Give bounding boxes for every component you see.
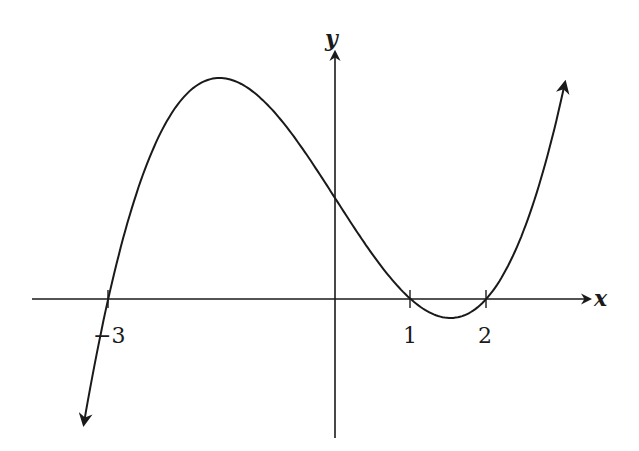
y-axis-label: y: [324, 25, 340, 51]
tick-label-neg3: −3: [93, 323, 125, 348]
tick-label-1: 1: [403, 323, 417, 348]
polynomial-graph: −3 1 2 x y: [0, 0, 639, 451]
polynomial-curve: [84, 78, 565, 424]
tick-label-2: 2: [478, 323, 492, 348]
x-axis-label: x: [593, 285, 608, 311]
